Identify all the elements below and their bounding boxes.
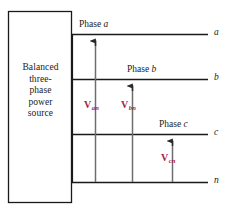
terminal-a-label: a <box>214 27 219 37</box>
voltage-an-label: Van <box>84 99 99 110</box>
voltage-bn-subscript: bn <box>129 104 136 111</box>
voltage-an-symbol: V <box>84 99 91 110</box>
voltage-cn-label: Vcn <box>161 152 175 163</box>
source-box-line-2: three- <box>9 74 72 86</box>
phase-c-symbol: c <box>184 119 188 129</box>
voltage-bn-label: Vbn <box>121 99 136 110</box>
phase-b-prefix: Phase <box>127 64 149 74</box>
phase-b-label: Phase b <box>127 64 156 74</box>
phase-c-label: Phase c <box>159 119 188 129</box>
phase-b-symbol: b <box>152 64 157 74</box>
voltage-cn-subscript: cn <box>169 157 176 164</box>
phase-a-label: Phase a <box>79 19 108 29</box>
voltage-cn-symbol: V <box>161 152 168 163</box>
voltage-an-subscript: an <box>92 104 99 111</box>
source-box-line-4: power <box>9 97 72 109</box>
phase-c-prefix: Phase <box>159 119 181 129</box>
source-box-label: Balanced three- phase power source <box>9 62 72 120</box>
source-box-line-1: Balanced <box>9 62 72 74</box>
terminal-b-label: b <box>214 72 219 82</box>
three-phase-source-diagram: Balanced three- phase power source Phase… <box>0 0 229 211</box>
source-box-line-5: source <box>9 108 72 120</box>
voltage-bn-symbol: V <box>121 99 128 110</box>
terminal-n-label: n <box>214 175 219 185</box>
phase-a-symbol: a <box>104 19 109 29</box>
phase-a-prefix: Phase <box>79 19 101 29</box>
terminal-c-label: c <box>214 127 218 137</box>
source-box-line-3: phase <box>9 85 72 97</box>
